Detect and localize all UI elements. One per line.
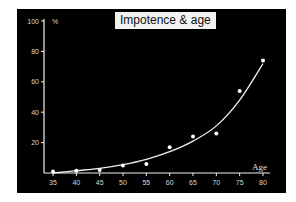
x-tick-label: 75: [236, 179, 244, 186]
data-point: [191, 135, 195, 139]
scatter-chart: 2040608010035404550556065707580%Age: [0, 0, 296, 202]
x-tick-label: 40: [72, 179, 80, 186]
x-tick-label: 35: [49, 179, 57, 186]
data-point: [74, 169, 78, 173]
x-tick-label: 50: [119, 179, 127, 186]
y-tick-label: 80: [31, 48, 39, 55]
x-axis-label: Age: [252, 162, 267, 172]
chart-title: Impotence & age: [115, 12, 216, 29]
y-tick-label: 40: [31, 109, 39, 116]
data-point: [238, 89, 242, 93]
x-tick-label: 45: [96, 179, 104, 186]
x-tick-label: 70: [212, 179, 220, 186]
data-point: [144, 162, 148, 166]
y-tick-label: 100: [27, 18, 39, 25]
data-point: [261, 59, 265, 63]
x-tick-label: 80: [259, 179, 267, 186]
data-point: [121, 163, 125, 167]
x-tick-label: 55: [142, 179, 150, 186]
fitted-curve: [53, 64, 263, 173]
x-tick-label: 65: [189, 179, 197, 186]
data-point: [51, 169, 55, 173]
x-tick-label: 60: [166, 179, 174, 186]
y-tick-label: 20: [31, 139, 39, 146]
data-point: [214, 131, 218, 135]
data-point: [98, 168, 102, 172]
y-axis-label: %: [52, 18, 58, 25]
data-point: [168, 145, 172, 149]
y-tick-label: 60: [31, 78, 39, 85]
